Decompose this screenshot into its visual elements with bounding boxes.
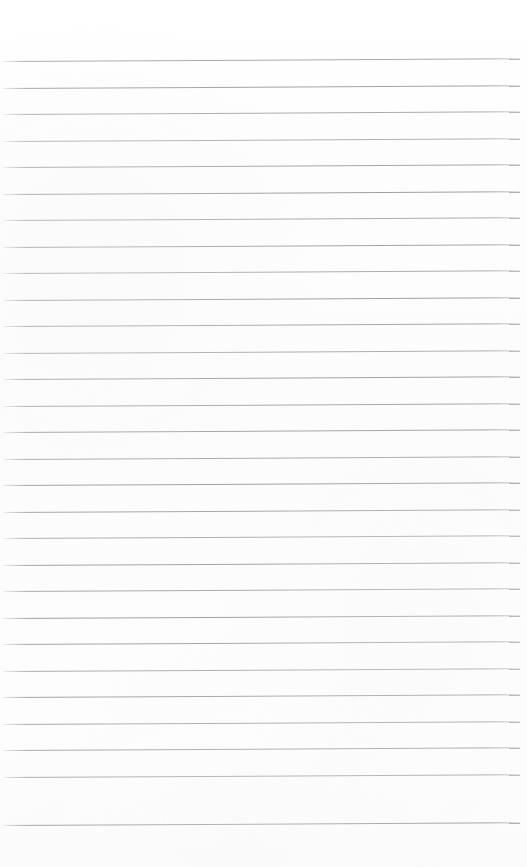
rule-line <box>3 270 520 274</box>
rule-line <box>3 535 520 539</box>
rule-line <box>3 694 520 698</box>
rule-line <box>3 58 520 62</box>
rule-line <box>3 244 520 248</box>
rule-line <box>3 588 520 592</box>
rule-line <box>3 562 520 566</box>
rule-line <box>3 323 520 327</box>
rule-line <box>3 482 520 486</box>
rule-line <box>3 774 520 778</box>
rule-line <box>3 721 520 725</box>
rule-line <box>3 164 520 168</box>
rule-line <box>3 403 520 407</box>
rule-line <box>3 111 520 115</box>
lined-paper-page <box>0 0 527 867</box>
rule-line <box>3 376 520 380</box>
rule-line <box>3 217 520 221</box>
rule-line <box>3 509 520 513</box>
rule-line <box>3 668 520 672</box>
rule-line <box>3 297 520 301</box>
rule-line <box>3 85 520 89</box>
rule-line <box>3 191 520 195</box>
rule-line <box>3 822 520 826</box>
rule-line <box>3 429 520 433</box>
rule-line <box>3 747 520 751</box>
rule-line <box>3 456 520 460</box>
rule-line <box>3 615 520 619</box>
rule-line <box>3 350 520 354</box>
rule-line <box>3 138 520 142</box>
ruled-lines-group <box>0 0 527 867</box>
rule-line <box>3 641 520 645</box>
